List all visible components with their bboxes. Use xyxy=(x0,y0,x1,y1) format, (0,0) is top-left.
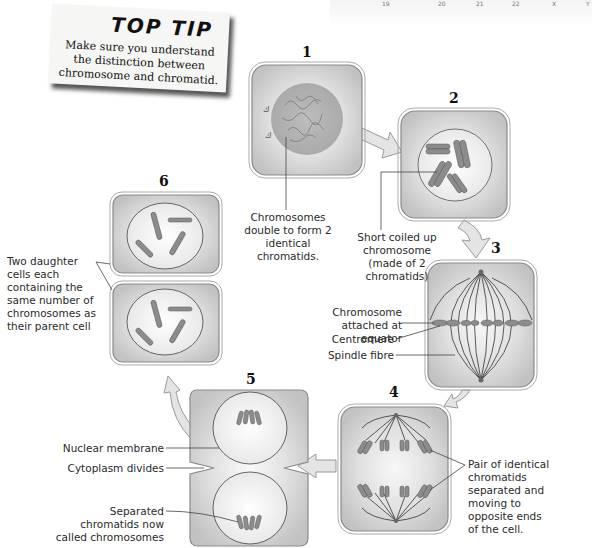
stage-number-4: 4 xyxy=(389,384,399,400)
cell-stage-2 xyxy=(381,108,510,230)
arrow-2-to-3 xyxy=(458,220,490,258)
stage-number-2: 2 xyxy=(449,90,459,106)
label-cytoplasm-divides: Cytoplasm divides xyxy=(60,462,164,475)
cell-stage-6 xyxy=(96,192,222,365)
label-short-coiled-chromosome: Short coiled up chromosome (made of 2 ch… xyxy=(353,231,441,283)
svg-text:ﻙ: ﻙ xyxy=(263,105,270,114)
label-chromosomes-double: Chromosomes double to form 2 identical c… xyxy=(236,211,340,263)
label-nuclear-membrane: Nuclear membrane xyxy=(60,442,164,455)
arrow-3-to-4 xyxy=(444,390,470,408)
label-centromere: Centromere xyxy=(320,333,394,346)
label-spindle-fibre: Spindle fibre xyxy=(320,349,394,362)
stage-number-3: 3 xyxy=(491,240,501,256)
stage-number-5: 5 xyxy=(246,371,256,387)
cell-stage-5 xyxy=(166,390,308,546)
svg-text:ﻙ: ﻙ xyxy=(265,131,272,140)
label-separated-chromatids: Separated chromatids now called chromoso… xyxy=(50,505,164,544)
stage-number-1: 1 xyxy=(302,44,312,60)
label-two-daughter-cells: Two daughter cells each containing the s… xyxy=(7,255,101,333)
cell-stage-1: ﻙ ﻙ xyxy=(249,62,365,210)
stage-number-6: 6 xyxy=(159,173,169,189)
cell-stage-4 xyxy=(338,404,465,534)
label-pair-chromatids: Pair of identical chromatids separated a… xyxy=(468,458,552,536)
